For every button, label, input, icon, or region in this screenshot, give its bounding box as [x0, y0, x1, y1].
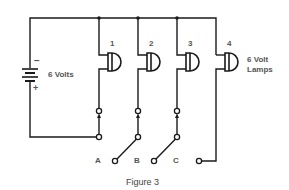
battery-label: 6 Volts [48, 70, 74, 79]
lamp-4-icon [225, 53, 238, 71]
circuit-schematic [0, 0, 289, 190]
lamp-4-branch [196, 53, 238, 164]
lamps-label-line1: 6 Volt [247, 55, 268, 64]
lamp-1-branch [99, 18, 121, 108]
switch-c [156, 108, 180, 159]
lamp-3-branch [177, 18, 199, 108]
terminal-4 [196, 158, 201, 163]
lamp-1-number: 1 [110, 39, 114, 48]
lamp-4-number: 4 [227, 39, 231, 48]
lamps-label-line2: Lamps [247, 65, 273, 74]
switch-b-label: B [134, 156, 140, 165]
lamp-2-branch [138, 18, 160, 108]
switch-a-label: A [95, 156, 101, 165]
figure-caption: Figure 3 [126, 177, 159, 187]
lamp-2-number: 2 [149, 39, 153, 48]
lamp-2-icon [147, 53, 160, 71]
switch-c-label: C [173, 156, 179, 165]
lamp-3-number: 3 [188, 39, 192, 48]
battery-minus-sign: − [34, 55, 40, 66]
lamp-3-icon [186, 53, 199, 71]
lamp-1-icon [108, 53, 121, 71]
battery-plus-sign: + [33, 83, 38, 93]
